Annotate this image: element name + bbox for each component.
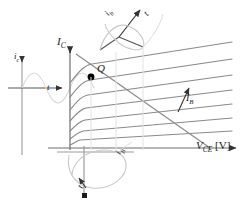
left-wave-amplitude-label: ic [14, 52, 19, 63]
top-sine-waveform-tail [143, 14, 163, 47]
top-time-axis-arrow [119, 10, 140, 37]
left-wave-time-label: t [47, 83, 50, 92]
ib-curve-family [70, 42, 232, 145]
quiescent-point-label: Q [97, 63, 105, 74]
ib-curve-3 [70, 104, 232, 131]
diagram-canvas [0, 0, 244, 210]
ib-family-label: IB [186, 93, 194, 106]
left-waveform-axes [8, 57, 62, 155]
y-axis-label: IC [57, 36, 66, 50]
diagram-root: IC ic t Q IB VCE [V] ib t iB t [0, 0, 244, 210]
x-axis-label: VCE [V] [196, 140, 230, 154]
